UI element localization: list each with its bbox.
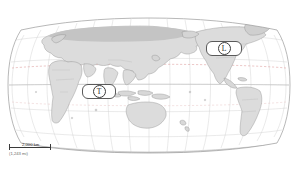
- scale-tick-start: [9, 144, 10, 150]
- callout-marker-letter-t: T: [93, 85, 106, 98]
- scale-tick-end: [50, 144, 51, 150]
- scale-bar: 2,000 km (1,243 mi): [9, 143, 57, 152]
- scale-bar-label: 2,000 km: [22, 142, 39, 147]
- scale-bar-line: [9, 147, 51, 148]
- callout-north-america[interactable]: L: [206, 41, 242, 56]
- callout-indian-ocean[interactable]: T: [82, 84, 116, 99]
- callout-marker-letter-l: L: [218, 42, 231, 55]
- world-map: L T 2,000 km (1,243 mi): [0, 0, 298, 173]
- scale-bar-alt-label: (1,243 mi): [9, 151, 28, 156]
